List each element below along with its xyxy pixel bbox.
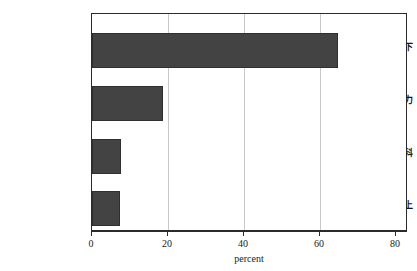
- bar-3: [92, 191, 120, 226]
- bar-0: [92, 33, 338, 68]
- x-tick-mark-20: [167, 231, 168, 236]
- x-tick-mark-40: [243, 231, 244, 236]
- x-axis-line: [91, 231, 407, 232]
- bar-1: [92, 86, 163, 121]
- x-tick-mark-80: [395, 231, 396, 236]
- x-tick-label-60: 60: [299, 238, 339, 249]
- x-tick-label-40: 40: [223, 238, 263, 249]
- x-tick-label-0: 0: [71, 238, 111, 249]
- x-tick-mark-60: [319, 231, 320, 236]
- x-axis-title: percent: [91, 253, 407, 264]
- chart-screenshot: 初中或以下 高中或同等学力 大学专科 大学本科或以上 0 20 40 60 80…: [0, 0, 417, 271]
- x-tick-label-80: 80: [375, 238, 415, 249]
- plot-area: [91, 13, 407, 231]
- x-tick-mark-0: [91, 231, 92, 236]
- bar-2: [92, 139, 121, 174]
- x-tick-label-20: 20: [147, 238, 187, 249]
